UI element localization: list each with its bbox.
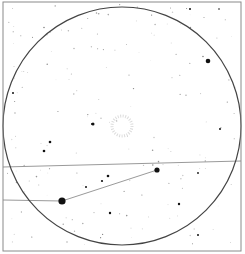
faint-star [15, 147, 17, 149]
faint-star [13, 26, 14, 27]
faint-star [167, 24, 168, 25]
chart-background [0, 0, 245, 254]
faint-star [200, 93, 201, 94]
faint-star [235, 87, 236, 88]
faint-star [171, 151, 172, 152]
faint-star [56, 79, 57, 80]
faint-star [102, 234, 103, 235]
faint-star [12, 241, 13, 242]
faint-star [158, 161, 160, 163]
faint-star [152, 164, 154, 166]
faint-star [20, 35, 21, 36]
faint-star [13, 66, 14, 67]
faint-star [186, 8, 187, 9]
faint-star [126, 44, 127, 45]
faint-star [179, 75, 180, 76]
faint-star [72, 219, 73, 220]
faint-star [180, 24, 181, 25]
faint-star [171, 42, 172, 43]
faint-star [69, 79, 70, 80]
faint-star [84, 244, 85, 245]
star [101, 180, 103, 182]
faint-star [41, 143, 42, 144]
faint-star [23, 165, 25, 167]
faint-star [76, 90, 77, 91]
faint-star [148, 217, 149, 218]
faint-star [11, 139, 12, 140]
star [197, 234, 199, 236]
faint-star [180, 178, 181, 179]
star [218, 8, 220, 10]
faint-star [81, 28, 82, 29]
faint-star [189, 63, 190, 64]
faint-star [87, 116, 88, 117]
faint-star [27, 72, 28, 73]
faint-star [13, 43, 14, 44]
faint-star [172, 11, 174, 13]
faint-star [109, 122, 110, 123]
faint-star [129, 180, 131, 182]
star [85, 186, 87, 188]
faint-star [61, 30, 62, 31]
faint-star [178, 165, 179, 166]
faint-star [96, 12, 97, 13]
star [58, 197, 65, 204]
finder-chart [0, 0, 245, 254]
faint-star [205, 168, 206, 169]
faint-star [97, 33, 98, 34]
faint-star [193, 228, 194, 229]
faint-star [153, 172, 154, 173]
faint-star [46, 145, 47, 146]
faint-star [234, 138, 235, 139]
faint-star [17, 92, 18, 93]
faint-star [167, 204, 168, 205]
faint-star [66, 241, 68, 243]
faint-star [141, 194, 142, 195]
faint-star [87, 18, 88, 19]
faint-star [68, 30, 69, 31]
star [107, 175, 110, 178]
faint-star [12, 8, 13, 9]
faint-star [76, 172, 77, 173]
faint-star [190, 14, 191, 15]
faint-star [8, 22, 9, 23]
faint-star [49, 168, 50, 169]
faint-star [172, 77, 173, 78]
faint-star [142, 228, 143, 229]
faint-star [55, 5, 56, 6]
star [178, 203, 180, 205]
faint-star [65, 217, 67, 219]
faint-star [73, 93, 74, 94]
faint-star [32, 37, 33, 38]
faint-star [143, 165, 144, 166]
faint-star [98, 13, 100, 15]
faint-star [176, 54, 177, 55]
faint-star [108, 14, 110, 16]
faint-star [47, 195, 48, 196]
faint-star [47, 64, 48, 65]
faint-star [152, 149, 154, 151]
faint-star [57, 111, 58, 112]
faint-star [151, 14, 152, 15]
faint-star [128, 74, 129, 75]
star [219, 128, 221, 130]
faint-star [50, 32, 51, 33]
faint-star [133, 88, 134, 89]
faint-star [58, 111, 59, 112]
faint-star [136, 20, 137, 21]
faint-star [130, 106, 131, 107]
faint-star [24, 191, 25, 192]
faint-star [97, 48, 98, 49]
faint-star [16, 171, 17, 172]
faint-star [67, 68, 68, 69]
faint-star [216, 38, 217, 39]
faint-star [151, 33, 152, 34]
faint-star [14, 101, 15, 102]
faint-star [100, 118, 101, 119]
faint-star [182, 188, 183, 189]
faint-star [100, 237, 101, 238]
star [49, 141, 52, 144]
faint-star [169, 218, 170, 219]
faint-star [116, 120, 117, 121]
faint-star [131, 228, 132, 229]
